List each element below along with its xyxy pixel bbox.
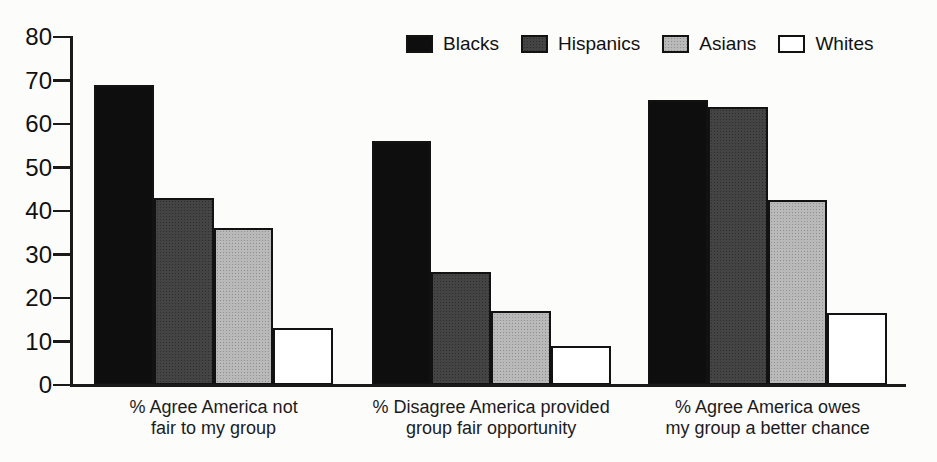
category-label-not-fair: % Agree America notfair to my group xyxy=(64,397,364,439)
category-label-line: group fair opportunity xyxy=(341,418,641,439)
category-label-owes-better-chance: % Agree America owesmy group a better ch… xyxy=(618,397,918,439)
category-label-line: % Agree America owes xyxy=(618,397,918,418)
category-label-line: % Disagree America provided xyxy=(341,397,641,418)
category-axis-labels: % Agree America notfair to my group% Dis… xyxy=(0,0,937,462)
bar-chart-figure: BlacksHispanicsAsiansWhites 010203040506… xyxy=(0,0,937,462)
category-label-fair-opportunity: % Disagree America providedgroup fair op… xyxy=(341,397,641,439)
category-label-line: fair to my group xyxy=(64,418,364,439)
category-label-line: % Agree America not xyxy=(64,397,364,418)
category-label-line: my group a better chance xyxy=(618,418,918,439)
